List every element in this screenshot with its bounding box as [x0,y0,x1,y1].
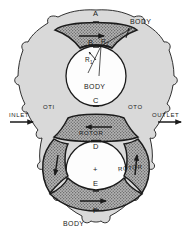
label-point-f: F [93,207,98,215]
label-radius-inner: R1 [85,57,93,64]
label-body-top: BODY [130,18,151,25]
label-point-c: C [93,97,98,105]
label-point-d: D [93,143,98,151]
label-radius-outer: R2 [101,39,109,46]
label-point-a: A [93,10,98,18]
radius-outer-subscript: 2 [106,42,109,47]
label-outlet: OUTLET [152,112,179,118]
label-body-center: BODY [84,83,105,90]
label-inlet: INLET [9,112,29,118]
diagram-canvas [0,0,192,238]
label-rotor-upper: ROTOR [79,130,104,136]
label-center-mark: + [93,166,97,174]
rotary-pump-diagram: A BODY B R2 R1 BODY C INLET OTI OTO OUTL… [0,0,192,238]
label-oti: OTI [43,104,55,110]
label-oto: OTO [128,104,143,110]
label-body-bottom: BODY [63,220,84,227]
radius-inner-subscript: 1 [90,60,93,65]
label-point-b: B [88,39,93,47]
label-point-e: E [93,180,98,188]
